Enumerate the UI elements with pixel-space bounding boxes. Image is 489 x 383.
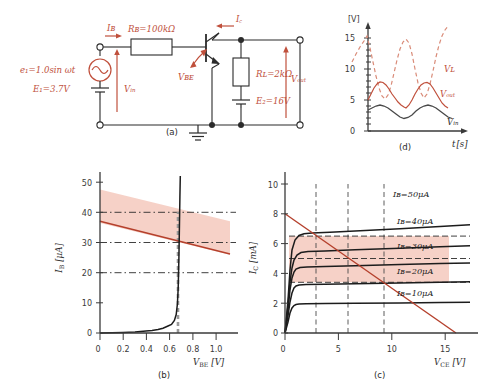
label-waveform-v-out: Vₒᵤₜ [440, 89, 456, 99]
panel-label-d: (d) [399, 142, 411, 152]
waveform-v-in [368, 105, 452, 119]
panel-b-ylabel: IB[µA] [54, 243, 65, 274]
panel-b-ytick-40: 40 [82, 209, 92, 218]
panel-b-xtick-06: 0.6 [163, 345, 176, 354]
terminal-node [297, 122, 303, 128]
label-i-base: Iʙ [106, 23, 115, 33]
label-v-in: Vᵢₙ [124, 84, 136, 94]
panel-b-xtick-04: 0.4 [140, 345, 153, 354]
npn-transistor-icon [193, 33, 220, 68]
panel-b-ytick-20: 20 [82, 269, 92, 278]
circuit-wires [100, 40, 300, 125]
panel-c-xtick-5: 5 [336, 345, 341, 354]
panel-b-xticks [100, 333, 216, 340]
panel-c-ytick-6: 6 [273, 240, 278, 249]
panel-c-xtick-10: 10 [387, 345, 397, 354]
junction-dot [238, 37, 244, 43]
terminal-node [97, 44, 103, 50]
panel-b-chart: 0 10 20 30 40 50 0 0.2 0.4 0.6 0.8 1.0 V… [54, 172, 238, 380]
panel-d-waveforms: 0 5 10 15 [V] Vʟ Vₒᵤₜ Vᵢₙ t[s] (d) [345, 15, 468, 152]
waveform-v-out [368, 82, 448, 108]
panel-b-xtick-08: 0.8 [187, 345, 200, 354]
panel-c-ytick-8: 8 [273, 210, 278, 219]
panel-c-xlabel: VCE[V] [434, 357, 466, 368]
panel-label-c: (c) [374, 370, 385, 380]
resistor-rb [131, 39, 172, 55]
panel-c-xticks [285, 333, 445, 340]
panel-label-b: (b) [158, 370, 170, 380]
panel-d-ytick-0: 0 [350, 127, 355, 136]
panel-c-ytick-10: 10 [268, 181, 278, 190]
panel-b-xtick-0: 0 [95, 345, 100, 354]
junction-dot [238, 122, 244, 128]
panel-c-curve-ib10 [285, 302, 470, 333]
panel-d-xlabel: t[s] [452, 139, 468, 149]
ground-icon [189, 125, 207, 140]
panel-c-xtick-0: 0 [280, 345, 285, 354]
label-i-collector: I꜀ [235, 14, 242, 24]
panel-d-ytick-15: 15 [345, 34, 355, 43]
panel-b-ytick-0: 0 [87, 329, 92, 338]
panel-c-label-ib20: Iʙ=20μA [396, 266, 433, 276]
label-v-be: Vʙᴇ [178, 72, 194, 82]
label-waveform-v-load: Vʟ [444, 64, 455, 74]
panel-c-curve-ib20 [285, 282, 470, 333]
panel-c-label-ib50: Iʙ=50μA [392, 189, 429, 199]
figure-canvas: e₁=1.0sin ωt E₁=3.7V Rʙ=100kΩ Rʟ=2kΩ E₂=… [0, 0, 489, 383]
panel-d-ytick-5: 5 [350, 96, 355, 105]
label-supply-e2: E₂=16V [255, 96, 291, 106]
label-source-ac: e₁=1.0sin ωt [20, 65, 76, 75]
label-waveform-v-in: Vᵢₙ [447, 117, 459, 127]
panel-c-label-ib10: Iʙ=10μA [396, 288, 433, 298]
panel-c-ytick-4: 4 [273, 270, 278, 279]
panel-c-chart: 0 2 4 6 8 10 0 5 10 15 VCE[V] IC[mA] Iʙ=… [248, 172, 478, 380]
panel-b-xtick-10: 1.0 [210, 345, 223, 354]
panel-a-circuit: e₁=1.0sin ωt E₁=3.7V Rʙ=100kΩ Rʟ=2kΩ E₂=… [20, 14, 307, 140]
panel-label-a: (a) [166, 127, 178, 137]
panel-b-xtick-02: 0.2 [117, 345, 130, 354]
panel-b-ylabel-group: IB[µA] [54, 243, 65, 274]
panel-b-ytick-30: 30 [82, 239, 92, 248]
battery-e1-icon [91, 81, 109, 100]
panel-b-ytick-50: 50 [82, 179, 92, 188]
panel-c-ytick-0: 0 [273, 329, 278, 338]
panel-c-xtick-15: 15 [440, 345, 450, 354]
sine-source-icon [89, 59, 111, 81]
label-resistor-rl: Rʟ=2kΩ [255, 69, 292, 79]
panel-d-yunit: [V] [348, 15, 360, 24]
terminal-node [97, 122, 103, 128]
panel-c-ylabel: IC[mA] [248, 241, 259, 275]
terminal-node [297, 37, 303, 43]
figure-transistor-amplifier: e₁=1.0sin ωt E₁=3.7V Rʙ=100kΩ Rʟ=2kΩ E₂=… [0, 0, 489, 383]
panel-b-ytick-10: 10 [82, 299, 92, 308]
junction-dot [209, 122, 215, 128]
panel-c-ytick-2: 2 [273, 300, 278, 309]
panel-d-ytick-10: 10 [345, 65, 355, 74]
label-v-out: Vₒᵤₜ [291, 74, 307, 84]
label-source-dc: E₁=3.7V [32, 84, 71, 94]
panel-c-ylabel-group: IC[mA] [248, 241, 259, 275]
panel-c-label-ib30: Iʙ=30μA [396, 241, 433, 251]
panel-b-tolerance-band [100, 190, 230, 255]
battery-e2-icon [232, 100, 250, 108]
panel-c-label-ib40: Iʙ=40μA [396, 216, 433, 226]
label-resistor-rb: Rʙ=100kΩ [127, 24, 175, 34]
resistor-rl [233, 58, 249, 86]
panel-b-xlabel: VBE[V] [193, 357, 225, 368]
